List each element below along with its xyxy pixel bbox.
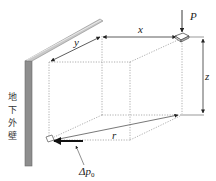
wall-label-char: 外 xyxy=(8,117,17,128)
delta-p0-main: Δp xyxy=(78,165,91,177)
wall-label-char: 壁 xyxy=(8,130,17,141)
delta-p0-subscript: 0 xyxy=(91,171,95,179)
y-label: y xyxy=(73,36,79,48)
box-edge xyxy=(52,115,102,138)
x-label: x xyxy=(137,23,143,35)
wall-top-beam-edge xyxy=(27,20,101,60)
measurement-point xyxy=(46,135,54,142)
wall-label-char: 下 xyxy=(8,105,17,115)
load-plate xyxy=(175,33,189,42)
wall-front-face xyxy=(25,61,32,166)
load-p-label: P xyxy=(189,10,197,22)
box-edge xyxy=(130,40,178,62)
basement-wall-load-diagram: 地 下 外 壁 y x P xyxy=(0,0,216,181)
wall-label-char: 地 xyxy=(8,91,17,102)
r-label: r xyxy=(112,129,117,141)
delta-p0-leader xyxy=(76,146,84,165)
wall-label: 地 下 外 壁 xyxy=(8,91,17,141)
delta-p0-label: Δp0 xyxy=(78,165,95,179)
z-label: z xyxy=(204,70,210,82)
dotted-box xyxy=(49,36,182,140)
